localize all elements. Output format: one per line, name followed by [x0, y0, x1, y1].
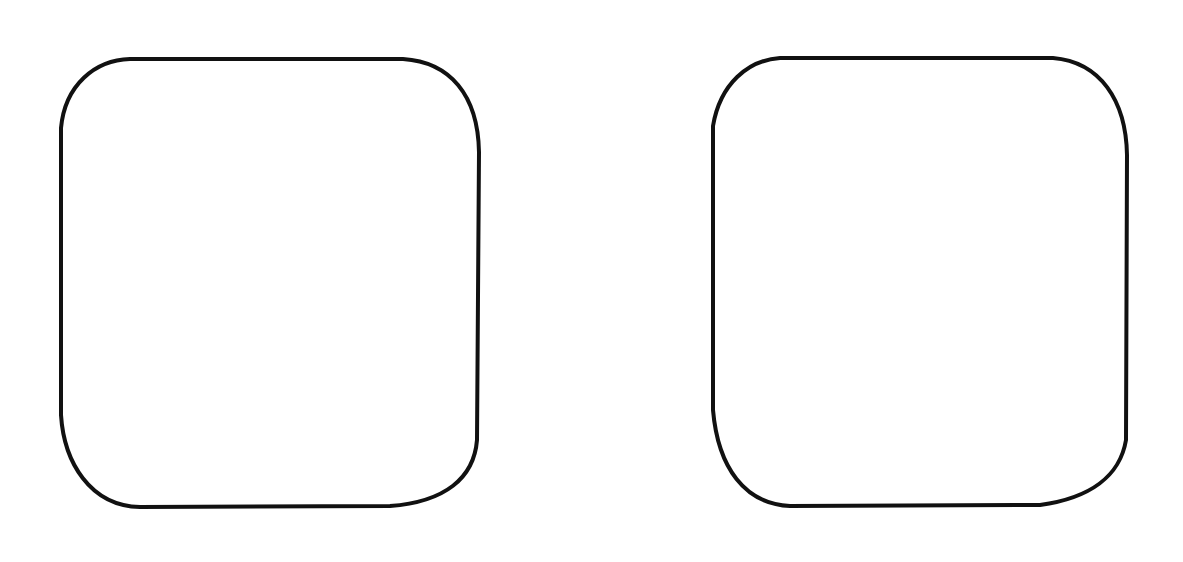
diagram-svg	[0, 0, 1183, 562]
right-rounded-square	[713, 58, 1127, 506]
left-rounded-square	[61, 59, 479, 507]
diagram-canvas	[0, 0, 1183, 562]
